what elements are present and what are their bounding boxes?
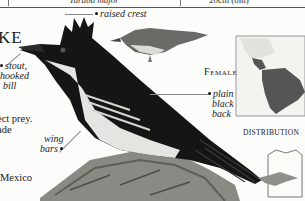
field-guide-page: Taraba major 20cm (8in) KE bbox=[0, 0, 305, 201]
back-leader-line bbox=[150, 94, 208, 95]
annotation-bill: stout, hooked bill bbox=[0, 61, 29, 91]
pointer-dot-icon bbox=[95, 12, 98, 15]
annotation-back: plain black back bbox=[208, 89, 234, 119]
distribution-caption: DISTRIBUTION bbox=[243, 128, 299, 137]
bird-illustration bbox=[0, 0, 305, 201]
female-caption: Female bbox=[204, 66, 237, 77]
pointer-dot-icon bbox=[60, 147, 63, 150]
annotation-raised-crest: raised crest bbox=[95, 9, 147, 19]
crest-leader-line bbox=[65, 14, 93, 15]
pointer-dot-icon bbox=[0, 64, 3, 67]
annotation-wing-bars: wing bars bbox=[40, 134, 65, 154]
body-text-line: Mexico bbox=[0, 172, 32, 183]
pointer-dot-icon bbox=[208, 92, 211, 95]
body-text-line: ade bbox=[0, 124, 12, 135]
body-text-line: ect prey. bbox=[0, 113, 32, 124]
